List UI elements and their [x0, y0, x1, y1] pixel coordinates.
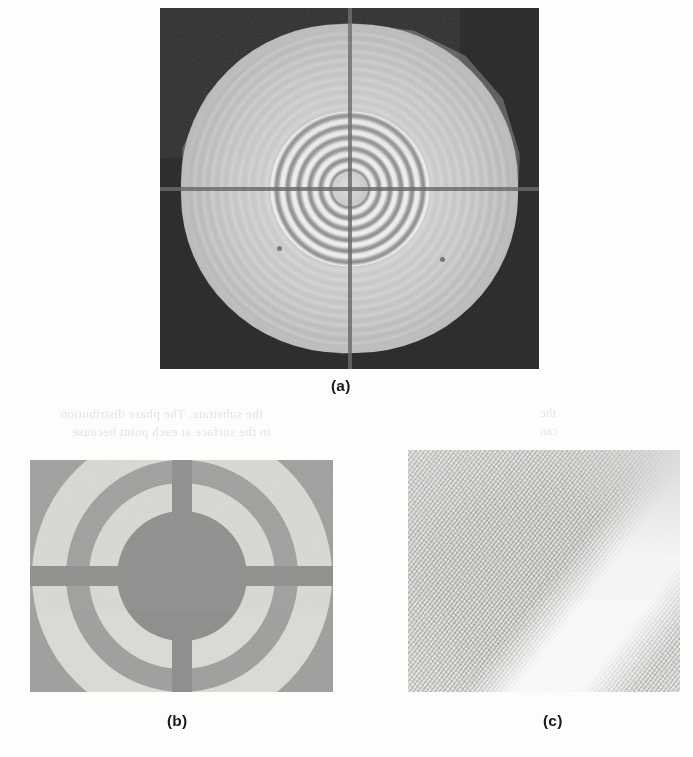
panel-b-caption: (b): [167, 712, 187, 730]
panel-c-caption: (c): [543, 712, 563, 730]
figure-container: (a) (b) (c): [0, 0, 693, 757]
panel-a-caption: (a): [331, 377, 351, 395]
panel-b-image: [30, 460, 333, 692]
support-spoke-horizontal: [30, 566, 333, 586]
panel-a-image: [160, 8, 539, 369]
panel-c-image: [408, 450, 680, 692]
vignette-overlay: [408, 450, 680, 692]
crosshair-horizontal-bar: [160, 187, 539, 191]
